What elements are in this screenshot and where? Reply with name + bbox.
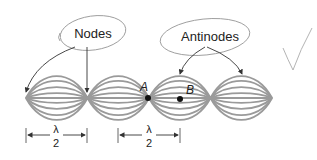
dimension-2-numerator: λ bbox=[146, 123, 152, 135]
standing-wave-diagram: Nodes Antinodes A B λ 2 λ 2 bbox=[0, 0, 317, 160]
half-wavelength-dimension-2: λ 2 bbox=[118, 123, 180, 149]
dimension-2-denominator: 2 bbox=[146, 137, 152, 149]
nodes-callout-tail bbox=[59, 33, 61, 41]
checkmark-icon bbox=[283, 28, 312, 70]
point-a-marker bbox=[145, 95, 151, 101]
nodes-arrow-1 bbox=[26, 47, 75, 92]
point-b-marker bbox=[177, 96, 183, 102]
dimension-1-numerator: λ bbox=[53, 123, 59, 135]
nodes-label: Nodes bbox=[74, 26, 112, 41]
point-b-label: B bbox=[186, 83, 194, 97]
antinodes-label: Antinodes bbox=[181, 29, 239, 44]
antinodes-arrow-1 bbox=[180, 47, 205, 74]
point-a-label: A bbox=[139, 80, 148, 94]
antinodes-arrow-2 bbox=[207, 47, 242, 74]
half-wavelength-dimension-1: λ 2 bbox=[26, 123, 87, 149]
dimension-1-denominator: 2 bbox=[53, 137, 59, 149]
